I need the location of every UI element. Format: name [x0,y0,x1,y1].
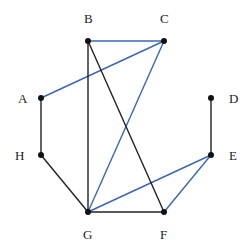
node-label-B: B [84,11,93,26]
node-D [208,95,214,101]
edges-group [41,41,211,212]
node-E [208,152,214,158]
node-label-F: F [160,227,167,242]
edge-A-C [41,41,164,98]
node-F [161,209,167,215]
node-label-G: G [83,227,92,242]
graph-diagram: ABCDEFGH [0,0,250,248]
graph-canvas: ABCDEFGH [0,0,250,248]
node-G [85,209,91,215]
edge-H-G [41,155,88,212]
node-label-A: A [18,91,28,106]
node-label-H: H [15,148,24,163]
node-label-C: C [160,11,169,26]
node-label-D: D [229,91,238,106]
node-A [38,95,44,101]
node-label-E: E [229,148,237,163]
edge-G-E [88,155,211,212]
node-C [161,38,167,44]
edge-E-F [164,155,211,212]
node-H [38,152,44,158]
node-B [85,38,91,44]
